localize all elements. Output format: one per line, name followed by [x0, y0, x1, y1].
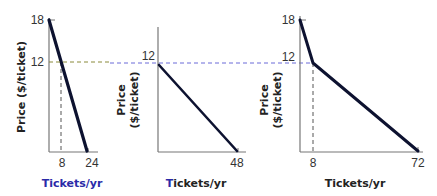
p3-label-8: 8 — [310, 156, 317, 170]
p2-y-axis-title-line1: Price — [115, 84, 128, 115]
demand-curves-figure: 18 12 8 24 Tickets/yr Price ($/ticket) 1… — [0, 0, 437, 196]
panel-2: 12 48 Tickets/yr Price ($/ticket) — [115, 27, 246, 190]
p1-label-12: 12 — [31, 55, 45, 69]
p3-x-axis-title: Tickets/yr — [325, 177, 386, 190]
p1-label-24: 24 — [85, 156, 99, 170]
p2-y-axis-title-line2: ($/ticket) — [128, 71, 141, 128]
p1-label-18: 18 — [31, 13, 45, 27]
p1-demand-line — [49, 20, 87, 151]
p3-label-72: 72 — [411, 156, 425, 170]
p2-label-12: 12 — [142, 49, 156, 63]
p1-x-axis-title: Tickets/yr — [42, 177, 103, 190]
p3-market-demand-line — [300, 20, 418, 151]
p3-y-axis-title-line1: Price — [258, 84, 271, 115]
p1-y-axis-title: Price ($/ticket) — [15, 41, 28, 133]
p3-y-axis-title-line2: ($/ticket) — [271, 71, 284, 128]
p3-label-18: 18 — [282, 13, 296, 27]
p2-x-axis-title: Tickets/yr — [166, 177, 227, 190]
p1-label-8: 8 — [59, 156, 66, 170]
p2-label-48: 48 — [230, 156, 244, 170]
p3-label-12: 12 — [282, 50, 296, 64]
panel-1: 18 12 8 24 Tickets/yr Price ($/ticket) — [15, 13, 103, 190]
panel-3: 18 12 8 72 Tickets/yr Price ($/ticket) — [258, 13, 425, 190]
p2-demand-line — [159, 65, 237, 151]
